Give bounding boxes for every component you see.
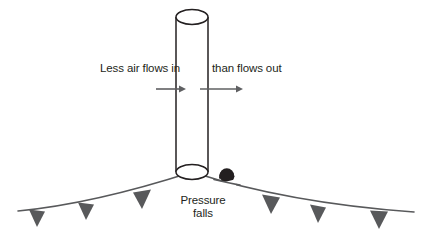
pressure-falls-label: Pressure falls (164, 194, 242, 220)
surface-marker-3 (133, 190, 151, 210)
pressure-falls-line-1: Pressure (164, 194, 242, 207)
surface-marker-4 (262, 195, 280, 215)
air-column-top-ellipse (176, 10, 208, 25)
low-pressure-blob-group (214, 168, 240, 186)
air-column-base-ellipse (176, 165, 208, 180)
surface-marker-2 (78, 203, 94, 221)
surface-marker-5 (310, 205, 326, 224)
air-column-body (176, 17, 208, 180)
inflow-label: Less air flows in (100, 62, 180, 75)
air-column (176, 10, 208, 180)
diagram-canvas: Less air flows in than flows out Pressur… (0, 0, 426, 243)
pressure-falls-line-2: falls (164, 207, 242, 220)
surface-marker-6 (370, 211, 388, 230)
surface-marker-1 (29, 210, 45, 228)
outflow-arrow-head (236, 86, 243, 93)
outflow-label: than flows out (212, 62, 282, 75)
